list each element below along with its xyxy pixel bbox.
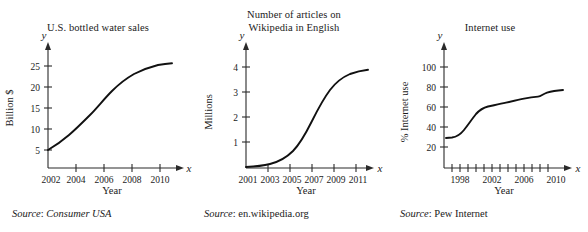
x-tick-label: 2010 xyxy=(151,175,170,185)
y-tick-label: 25 xyxy=(31,62,41,72)
x-tick-group: 2002 2004 2006 2008 2010 xyxy=(42,164,170,185)
chart-title-internet-use: Internet use xyxy=(392,22,588,35)
y-tick-label: 40 xyxy=(427,123,437,133)
y-tick-group: 5 10 15 20 25 xyxy=(31,62,53,156)
y-tick-label: 60 xyxy=(427,103,437,113)
x-axis-arrowhead xyxy=(564,165,572,171)
data-curve-wikipedia xyxy=(246,70,368,167)
chart-title-line: Number of articles on xyxy=(196,9,392,22)
x-axis-variable: x xyxy=(575,162,581,174)
y-tick-group: 1 2 3 4 xyxy=(233,63,250,148)
chart-title-wikipedia: Number of articles on Wikipedia in Engli… xyxy=(196,9,392,34)
plot-area-internet-use: y x 20 40 60 80 100 xyxy=(392,34,588,194)
source-line-wikipedia: Source: en.wikipedia.org xyxy=(204,207,309,220)
x-tick-label: 2006 xyxy=(515,175,534,185)
x-axis-title: Year xyxy=(494,185,514,194)
chart-panel-internet-use: Internet use y x 20 40 60 80 100 xyxy=(392,0,588,232)
y-axis-variable: y xyxy=(437,34,443,41)
x-tick-label: 2004 xyxy=(67,175,86,185)
plot-area-bottled-water: y x 5 10 15 20 25 2002 xyxy=(0,34,196,194)
x-tick-label: 2007 xyxy=(305,175,324,185)
y-axis-title: Billion $ xyxy=(4,89,15,126)
y-tick-label: 10 xyxy=(31,125,41,135)
data-curve-internet-use xyxy=(446,90,563,138)
y-tick-label: 3 xyxy=(233,88,238,98)
y-axis-title: % Internet use xyxy=(399,81,410,142)
y-tick-label: 100 xyxy=(422,63,437,73)
chart-title-line: Wikipedia in English xyxy=(196,22,392,35)
y-axis-arrowhead xyxy=(243,42,249,50)
source-line-internet-use: Source: Pew Internet xyxy=(400,207,488,220)
chart-panel-wikipedia: Number of articles on Wikipedia in Engli… xyxy=(196,0,392,232)
x-tick-label: 1998 xyxy=(451,175,470,185)
x-tick-label: 2003 xyxy=(261,175,280,185)
x-tick-label: 2011 xyxy=(349,175,368,185)
y-tick-label: 20 xyxy=(31,83,41,93)
y-tick-label: 5 xyxy=(35,146,40,156)
y-axis-variable: y xyxy=(41,34,47,41)
y-tick-label: 2 xyxy=(233,113,238,123)
x-tick-label: 2005 xyxy=(283,175,302,185)
y-tick-label: 80 xyxy=(427,83,437,93)
x-tick-label: 2010 xyxy=(547,175,566,185)
x-axis-arrowhead xyxy=(176,165,184,171)
source-label: Source xyxy=(12,208,41,219)
source-line-bottled-water: Source: Consumer USA xyxy=(12,207,111,220)
x-tick-label: 2008 xyxy=(123,175,142,185)
x-axis-title: Year xyxy=(296,185,316,194)
y-tick-label: 1 xyxy=(233,138,238,148)
y-tick-label: 4 xyxy=(233,63,238,73)
chart-panel-bottled-water: U.S. bottled water sales y x 5 10 15 xyxy=(0,0,196,232)
x-axis-variable: x xyxy=(186,162,192,174)
x-tick-label: 2006 xyxy=(95,175,114,185)
x-axis-title: Year xyxy=(102,185,122,194)
x-tick-label: 2001 xyxy=(239,175,258,185)
x-tick-group: 2001 2003 2005 2007 2009 2011 xyxy=(239,164,368,185)
x-axis-variable: x xyxy=(377,162,383,174)
source-text: en.wikipedia.org xyxy=(238,208,308,219)
y-tick-label: 20 xyxy=(427,143,437,153)
chart-title-line: Internet use xyxy=(392,22,588,35)
source-text: Consumer USA xyxy=(46,208,111,219)
y-axis-title: Millions xyxy=(203,94,214,130)
y-axis-arrowhead xyxy=(45,42,51,50)
y-tick-label: 15 xyxy=(31,104,41,114)
x-tick-label: 2009 xyxy=(327,175,346,185)
y-axis-arrowhead xyxy=(441,42,447,50)
data-curve-bottled-water xyxy=(48,63,172,150)
source-label: Source xyxy=(400,208,429,219)
chart-title-line: U.S. bottled water sales xyxy=(0,22,196,35)
source-label: Source xyxy=(204,208,233,219)
chart-title-bottled-water: U.S. bottled water sales xyxy=(0,22,196,35)
plot-area-wikipedia: y x 1 2 3 4 2001 2003 2005 xyxy=(196,34,392,194)
x-tick-label: 2002 xyxy=(42,175,61,185)
x-tick-label: 2002 xyxy=(483,175,502,185)
three-chart-figure: U.S. bottled water sales y x 5 10 15 xyxy=(0,0,588,232)
y-axis-variable: y xyxy=(239,34,245,41)
x-tick-group: 1998 2002 2006 2010 xyxy=(451,164,566,185)
x-axis-arrowhead xyxy=(366,165,374,171)
source-text: Pew Internet xyxy=(434,208,487,219)
